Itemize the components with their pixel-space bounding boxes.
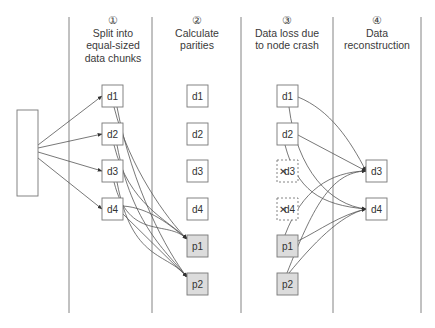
node-loss-p2: p2 [277, 273, 298, 295]
node-label: d1 [282, 91, 294, 102]
node-label: d2 [107, 129, 119, 140]
node-loss-d2: d2 [277, 123, 298, 145]
edge [289, 107, 366, 209]
node-parity-d4: d4 [187, 198, 208, 220]
cross-icon: ✕ [279, 166, 287, 177]
node-label: d4 [192, 204, 204, 215]
diagram-canvas: d1d2d3d4d1d2d3d4p1p2d1d2d3✕d4✕p1p2d3d4 [0, 0, 435, 328]
node-label: p1 [192, 241, 204, 252]
node-reconstruct-d4: d4 [366, 198, 387, 220]
node-parity-p1: p1 [187, 235, 208, 257]
edge [298, 97, 366, 171]
edge [114, 145, 187, 239]
edge [38, 152, 102, 171]
node-label: p2 [192, 279, 204, 290]
node-split-d2: d2 [102, 123, 123, 145]
node-label: d2 [192, 129, 204, 140]
edge [287, 171, 366, 273]
node-loss-d4: d4✕ [277, 198, 298, 220]
node-label: p2 [282, 279, 294, 290]
node-loss-d3: d3✕ [277, 160, 298, 182]
node-loss-p1: p1 [277, 235, 298, 257]
edge [114, 107, 187, 239]
node-label: d4 [371, 204, 383, 215]
cross-icon: ✕ [279, 204, 287, 215]
node-parity-d2: d2 [187, 123, 208, 145]
node-loss-d1: d1 [277, 85, 298, 107]
edge [38, 96, 102, 145]
node-split-d3: d3 [102, 160, 123, 182]
node-reconstruct-d3: d3 [366, 160, 387, 182]
node-label: d3 [107, 166, 119, 177]
edge [298, 209, 366, 241]
node-split-d4: d4 [102, 198, 123, 220]
node-parity-p2: p2 [187, 273, 208, 295]
node-parity-d3: d3 [187, 160, 208, 182]
node-label: d2 [282, 129, 294, 140]
node-label: d1 [107, 91, 119, 102]
node-label: d4 [107, 204, 119, 215]
node-label: d3 [371, 166, 383, 177]
source-data-block [17, 110, 38, 196]
node-label: d1 [192, 91, 204, 102]
node-split-d1: d1 [102, 85, 123, 107]
edge [38, 134, 102, 148]
node-label: d3 [192, 166, 204, 177]
node-label: p1 [282, 241, 294, 252]
edge [38, 158, 102, 209]
node-parity-d1: d1 [187, 85, 208, 107]
nodes: d1d2d3d4d1d2d3d4p1p2d1d2d3✕d4✕p1p2d3d4 [17, 85, 387, 295]
